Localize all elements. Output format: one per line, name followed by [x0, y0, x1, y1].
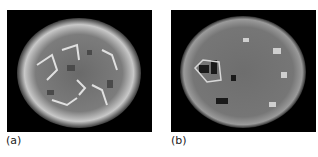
- scan-image-b: [171, 10, 316, 132]
- image-panel-b: [171, 10, 316, 132]
- image-panel-a: [7, 10, 152, 132]
- panel-label-b: (b): [171, 134, 187, 148]
- panel-label-a: (a): [6, 134, 21, 148]
- scan-image-a: [7, 10, 152, 132]
